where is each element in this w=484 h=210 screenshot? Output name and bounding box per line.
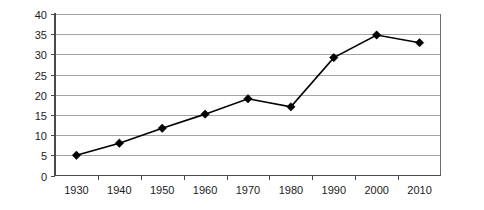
y-tick-label-35: 35 [35,29,47,41]
y-tick-label-20: 20 [35,90,47,102]
y-tick-label-40: 40 [35,9,47,21]
x-tick-label-1950: 1950 [150,184,174,196]
y-tick-label-5: 5 [41,150,47,162]
x-tick-label-1960: 1960 [193,184,217,196]
chart-background [0,0,484,210]
line-chart: 0510152025303540 19301940195019601970198… [0,0,484,210]
y-tick-label-10: 10 [35,130,47,142]
y-tick-label-15: 15 [35,110,47,122]
x-tick-label-1930: 1930 [64,184,88,196]
x-tick-label-1990: 1990 [322,184,346,196]
x-tick-label-2000: 2000 [364,184,388,196]
y-tick-label-25: 25 [35,70,47,82]
chart-canvas: 0510152025303540 19301940195019601970198… [0,0,484,210]
y-tick-label-0: 0 [41,171,47,183]
x-tick-label-2010: 2010 [407,184,431,196]
x-tick-labels: 193019401950196019701980199020002010 [64,184,432,196]
x-tick-label-1980: 1980 [279,184,303,196]
x-tick-label-1940: 1940 [107,184,131,196]
x-tick-label-1970: 1970 [236,184,260,196]
y-tick-label-30: 30 [35,49,47,61]
